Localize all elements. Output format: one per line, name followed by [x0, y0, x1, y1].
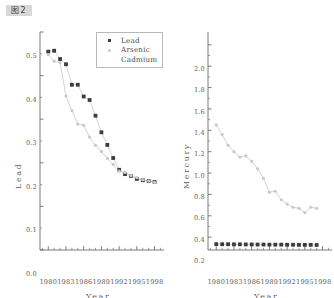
y-tick-label: 1.8 — [187, 86, 205, 94]
y-tick-label: 0.2 — [187, 257, 205, 265]
chart-panel-mercury: Mercury DDT PCBs Mercury Year 0.20.40.60… — [166, 24, 334, 296]
legend-item-cadmium[interactable]: Cadmium — [101, 55, 157, 64]
y-tick-label: 0.5 — [19, 52, 37, 60]
x-axis-label-year: Year — [254, 292, 278, 298]
y-tick-label: 2.0 — [187, 65, 205, 73]
y-tick-label: 0.6 — [187, 214, 205, 222]
legend-label: Arsenic — [118, 45, 150, 54]
y-tick-label: 0.3 — [19, 139, 37, 147]
legend-marker-square-icon — [101, 39, 118, 43]
y-tick-label: 0.1 — [19, 226, 37, 234]
legend-lead[interactable]: Lead Arsenic Cadmium — [96, 32, 163, 68]
figure-label: 图2 — [6, 5, 32, 16]
y-tick-label: 1.0 — [187, 172, 205, 180]
legend-label: Lead — [118, 36, 140, 45]
chart-panel-lead: Lead Arsenic Cadmium Lead Year 0.00.10.2… — [0, 24, 174, 296]
y-tick-label: 0.4 — [19, 96, 37, 104]
legend-marker-dot-icon — [101, 49, 118, 52]
y-tick-label: 1.2 — [187, 150, 205, 158]
x-tick-label: 1998 — [313, 278, 333, 286]
y-tick-label: 0.8 — [187, 193, 205, 201]
legend-item-lead[interactable]: Lead — [101, 36, 157, 45]
y-tick-label: 0.2 — [19, 183, 37, 191]
legend-item-arsenic[interactable]: Arsenic — [101, 45, 157, 54]
x-axis-label-year: Year — [86, 292, 110, 298]
legend-label: Cadmium — [118, 55, 157, 64]
y-tick-label: 0.4 — [187, 236, 205, 244]
y-tick-label: 1.4 — [187, 129, 205, 137]
y-tick-label: 1.6 — [187, 108, 205, 116]
y-tick-label: 0.0 — [19, 270, 37, 278]
x-tick-label: 1998 — [145, 278, 165, 286]
